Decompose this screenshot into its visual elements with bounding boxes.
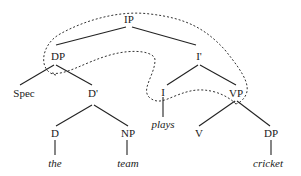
node-ip: IP [124, 13, 134, 25]
edge-ip-ibar [132, 27, 196, 45]
edge-ibar-vp [200, 65, 236, 85]
tree-nodes: IP DP I' Spec D' I VP D NP V DP [13, 13, 278, 139]
word-plays: plays [150, 118, 174, 130]
node-np: NP [121, 127, 135, 139]
edge-ip-dp [56, 27, 126, 45]
word-cricket: cricket [253, 157, 284, 169]
edge-vp-v [199, 101, 235, 126]
node-vp: VP [229, 87, 243, 99]
node-dp-object: DP [264, 127, 278, 139]
node-d-bar: D' [88, 87, 98, 99]
node-spec: Spec [13, 87, 35, 99]
edge-ibar-i [167, 65, 198, 85]
node-i: I [161, 86, 165, 98]
node-d: D [51, 127, 59, 139]
movement-line-outer [44, 13, 248, 104]
edge-dbar-d [56, 105, 92, 126]
edge-dbar-np [94, 105, 128, 126]
tree-svg: IP DP I' Spec D' I VP D NP V DP the team… [0, 0, 301, 176]
tree-words: the team plays cricket [48, 118, 284, 169]
word-the: the [48, 157, 62, 169]
word-team: team [117, 157, 138, 169]
syntax-tree-diagram: IP DP I' Spec D' I VP D NP V DP the team… [0, 0, 301, 176]
edge-vp-dp [237, 101, 270, 126]
node-i-bar: I' [196, 50, 202, 62]
node-dp-subject: DP [51, 50, 65, 62]
edge-dp-spec [20, 65, 54, 85]
edge-dp-dbar [56, 65, 92, 85]
node-v: V [195, 127, 203, 139]
movement-lines [44, 13, 248, 104]
